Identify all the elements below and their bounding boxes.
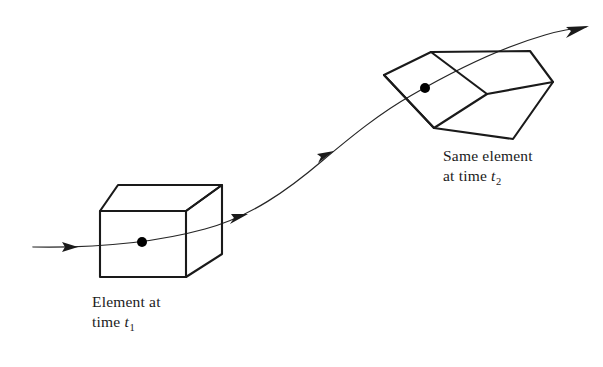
undeformed-cube: [100, 185, 222, 277]
deformed-outline: [384, 51, 553, 139]
pathline-arrowhead-4-icon: [566, 26, 589, 38]
cube-right-face: [186, 185, 222, 277]
caption-element-t1-line1: Element at: [92, 292, 161, 312]
cube-center-marker: [137, 237, 147, 247]
pathline-arrowhead-3-icon: [317, 151, 334, 163]
figure-root: Element at time t1 Same element at time …: [0, 0, 603, 367]
caption-element-t1-time-sub: 1: [129, 322, 135, 333]
caption-element-t2-time-word: at time: [443, 167, 491, 184]
deformed-internal-edge-left: [384, 75, 434, 128]
caption-element-t2-line2: at time t2: [443, 166, 533, 192]
deformed-internal-edge-bottom: [434, 94, 487, 128]
caption-element-t2: Same element at time t2: [443, 146, 533, 192]
caption-element-t2-time-sub: 2: [496, 176, 502, 187]
deformed-center-marker: [420, 83, 430, 93]
deformed-element: [384, 51, 553, 139]
caption-element-t1-line2: time t1: [92, 312, 161, 338]
caption-element-t2-line1: Same element: [443, 146, 533, 166]
caption-element-t2-time-var: t: [491, 167, 496, 184]
caption-element-t1-time-word: time: [92, 313, 124, 330]
caption-element-t1: Element at time t1: [92, 292, 161, 338]
